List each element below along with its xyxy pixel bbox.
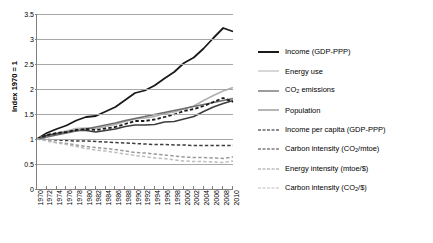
chart-legend: Income (GDP-PPP)Energy useCO2 emissionsP… <box>258 42 430 198</box>
legend-label: Carbon intensity (CO2/$) <box>285 183 367 194</box>
gridline <box>37 89 233 90</box>
x-tick-label: 1974 <box>56 190 63 206</box>
series-line <box>37 139 233 163</box>
legend-item[interactable]: Income (GDP-PPP) <box>258 42 430 62</box>
legend-item[interactable]: Carbon intensity (CO2/$) <box>258 179 430 199</box>
legend-label: Income (GDP-PPP) <box>285 47 350 56</box>
legend-label: Energy intensity (mtoe/$) <box>285 164 368 173</box>
x-tick-label: 1976 <box>65 190 72 206</box>
series-line <box>37 99 233 140</box>
legend-item[interactable]: CO2 emissions <box>258 81 430 101</box>
chart-root: Index 1970 = 1 00.511.522.533.5 19701972… <box>0 0 433 243</box>
x-tick-label: 1998 <box>173 190 180 206</box>
legend-swatch-icon <box>258 67 279 76</box>
x-tick-label: 1970 <box>36 190 43 206</box>
y-tick <box>35 164 37 165</box>
legend-label: Energy use <box>285 67 323 76</box>
legend-item[interactable]: Energy intensity (mtoe/$) <box>258 159 430 179</box>
legend-label: Carbon intensity (CO2/mtoe) <box>285 144 379 155</box>
y-tick <box>35 39 37 40</box>
gridline <box>37 39 233 40</box>
legend-item[interactable]: Population <box>258 101 430 121</box>
y-tick-label: 2 <box>10 86 34 93</box>
x-tick-label: 2010 <box>232 190 239 206</box>
y-tick <box>35 139 37 140</box>
y-tick-label: 0 <box>10 186 34 193</box>
legend-label: CO2 emissions <box>285 85 335 96</box>
x-tick-label: 1982 <box>95 190 102 206</box>
y-tick-label: 3 <box>10 36 34 43</box>
legend-item[interactable]: Income per capita (GDP-PPP) <box>258 120 430 140</box>
x-tick-label: 1988 <box>124 190 131 206</box>
legend-swatch-icon <box>258 106 279 115</box>
y-tick-label: 0.5 <box>10 161 34 168</box>
x-tick-label: 1986 <box>114 190 121 206</box>
gridline <box>37 164 233 165</box>
x-tick-label: 2004 <box>203 190 210 206</box>
legend-swatch-icon <box>258 145 279 154</box>
series-line <box>37 28 233 139</box>
legend-swatch-icon <box>258 164 279 173</box>
x-tick-label: 2008 <box>222 190 229 206</box>
y-tick <box>35 89 37 90</box>
x-tick-label: 1984 <box>105 190 112 206</box>
series-line <box>37 139 233 159</box>
legend-swatch-icon <box>258 125 279 134</box>
gridline <box>37 64 233 65</box>
x-tick-label: 1978 <box>75 190 82 206</box>
gridline <box>37 114 233 115</box>
x-tick-label: 1992 <box>144 190 151 206</box>
x-tick-label: 1972 <box>46 190 53 206</box>
legend-label: Income per capita (GDP-PPP) <box>285 125 385 134</box>
y-tick <box>35 114 37 115</box>
gridline <box>37 139 233 140</box>
x-axis-labels: 1970197219741976197819801982198419861988… <box>36 190 232 242</box>
legend-swatch-icon <box>258 86 279 95</box>
y-tick <box>35 14 37 15</box>
x-tick-label: 1980 <box>85 190 92 206</box>
x-tick-label: 2002 <box>193 190 200 206</box>
x-tick-label: 1994 <box>154 190 161 206</box>
legend-swatch-icon <box>258 184 279 193</box>
x-tick-label: 1996 <box>163 190 170 206</box>
y-tick-label: 2.5 <box>10 61 34 68</box>
series-lines <box>37 14 233 189</box>
plot-area: 00.511.522.533.5 <box>36 14 233 189</box>
y-tick-label: 1.5 <box>10 111 34 118</box>
gridline <box>37 14 233 15</box>
y-tick-label: 3.5 <box>10 11 34 18</box>
legend-swatch-icon <box>258 47 279 56</box>
legend-item[interactable]: Energy use <box>258 62 430 82</box>
x-tick-label: 2000 <box>183 190 190 206</box>
x-tick-label: 1990 <box>134 190 141 206</box>
legend-item[interactable]: Carbon intensity (CO2/mtoe) <box>258 140 430 160</box>
x-tick-label: 2006 <box>212 190 219 206</box>
y-tick <box>35 64 37 65</box>
y-tick-label: 1 <box>10 136 34 143</box>
legend-label: Population <box>285 106 320 115</box>
